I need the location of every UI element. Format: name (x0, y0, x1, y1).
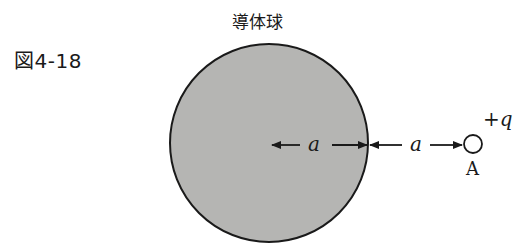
diagram-canvas: a a +q A (0, 0, 522, 250)
gap-label: a (410, 132, 422, 156)
point-charge-a (464, 135, 482, 153)
charge-label: +q (483, 107, 513, 131)
point-label: A (465, 158, 480, 179)
conductor-sphere (170, 44, 368, 242)
radius-label: a (308, 132, 320, 156)
